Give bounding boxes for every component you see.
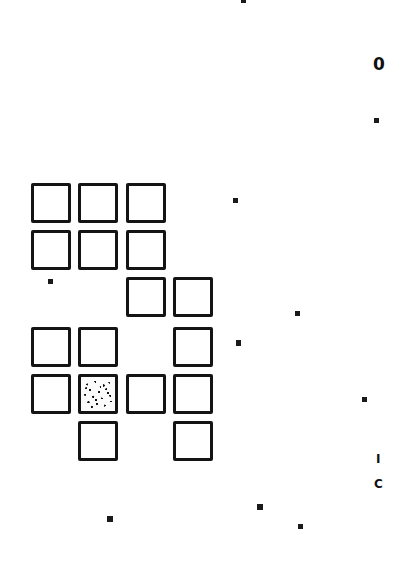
- speck-right-lower: [362, 397, 367, 402]
- cell-r0-c2[interactable]: [126, 183, 166, 223]
- cell-r5-c1[interactable]: [78, 421, 118, 461]
- cell-r3-c0[interactable]: [31, 327, 71, 367]
- margin-glyph-c: C: [374, 478, 383, 490]
- cell-r1-c1[interactable]: [78, 230, 118, 270]
- speck-right-upper: [374, 118, 379, 123]
- speck-left-grid: [48, 279, 53, 284]
- speck-mid-right-b: [295, 311, 300, 316]
- speck-bottom-mid: [257, 504, 263, 510]
- margin-glyph-bar: I: [376, 453, 380, 465]
- cell-r1-c2[interactable]: [126, 230, 166, 270]
- cell-r4-c0[interactable]: [31, 374, 71, 414]
- scanned-page: 0IC: [0, 0, 405, 569]
- cell-r1-c0[interactable]: [31, 230, 71, 270]
- cell-r4-c2[interactable]: [126, 374, 166, 414]
- speck-mid-right-c: [236, 340, 241, 346]
- speck-bottom-left: [107, 516, 113, 522]
- cell-r4-c3[interactable]: [173, 374, 213, 414]
- cell-r0-c0[interactable]: [31, 183, 71, 223]
- cell-r3-c3[interactable]: [173, 327, 213, 367]
- speck-top-center: [241, 0, 246, 3]
- cell-r5-c3[interactable]: [173, 421, 213, 461]
- cell-r2-c2[interactable]: [126, 277, 166, 317]
- cell-r0-c1[interactable]: [78, 183, 118, 223]
- speck-mid-right-a: [233, 198, 238, 203]
- cell-r2-c3[interactable]: [173, 277, 213, 317]
- cell-r4-c1[interactable]: [78, 374, 118, 414]
- cell-r3-c1[interactable]: [78, 327, 118, 367]
- margin-glyph-zero: 0: [373, 56, 385, 73]
- speck-bottom-right: [298, 524, 303, 529]
